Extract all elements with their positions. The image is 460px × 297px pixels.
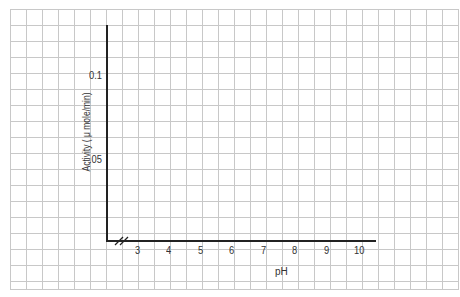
x-tick-label: 9 [324, 244, 329, 256]
axis-break-icon [113, 234, 133, 246]
x-tick-label: 5 [198, 244, 203, 256]
x-tick-label: 8 [292, 244, 297, 256]
graph-paper-grid [10, 9, 459, 290]
x-axis-line [106, 240, 376, 242]
x-axis-title: pH [275, 266, 288, 277]
x-tick-label: 7 [261, 244, 266, 256]
y-axis-title: Activity ( μ mole/min) [81, 92, 92, 171]
x-tick-label: 3 [135, 244, 140, 256]
x-tick-label: 4 [166, 244, 171, 256]
x-tick-label: 10 [354, 244, 364, 256]
y-axis-line [106, 25, 108, 241]
x-tick-label: 6 [229, 244, 234, 256]
y-tick-label: 0.1 [89, 69, 102, 81]
